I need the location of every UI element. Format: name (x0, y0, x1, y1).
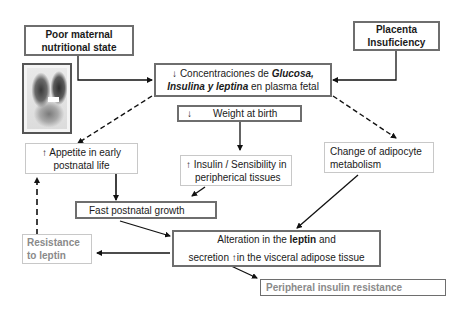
node-text: Fast postnatal growth (89, 204, 215, 217)
node-text: Appetite in early (49, 147, 121, 158)
node-text: nutritional state (41, 41, 116, 54)
node-fetal-plasma-concentrations: ↓ Concentraciones de Glucosa, Insulina y… (154, 63, 332, 97)
node-text-emphasis: Glucosa, (272, 68, 314, 79)
node-peripheral-insulin-resistance: Peripheral insulin resistance (260, 279, 446, 296)
node-adipocyte-metabolism: Change of adipocyte metabolism (324, 142, 434, 173)
node-poor-maternal-nutrition: Poor maternal nutritional state (24, 25, 134, 56)
node-text: in the visceral adipose tissue (237, 252, 365, 263)
node-fast-postnatal-growth: Fast postnatal growth (75, 201, 217, 219)
node-weight-at-birth: ↓ Weight at birth (177, 105, 302, 122)
up-arrow-icon: ↑ (42, 147, 47, 158)
node-text: Placenta (376, 23, 417, 36)
fetus-ultrasound-image-icon (22, 63, 72, 134)
node-text: Poor maternal (45, 28, 112, 41)
node-text-emphasis: Insulina y leptina (167, 81, 248, 92)
node-text: postnatal life (53, 159, 109, 172)
node-text: Weight at birth (213, 107, 277, 120)
node-text: Peripheral insulin resistance (266, 281, 445, 294)
node-text: Change of adipocyte (330, 145, 433, 158)
node-leptin-alteration: Alteration in the leptin and secretion ↑… (172, 230, 381, 267)
node-insulin-sensibility: ↑ Insulin / Sensibility in peripherical … (180, 155, 292, 186)
node-text: Alteration in the (217, 234, 289, 245)
node-text: Concentraciones de (177, 68, 272, 79)
down-arrow-icon: ↓ (187, 107, 207, 120)
up-arrow-icon: ↑ (186, 159, 191, 170)
node-placenta-insufficiency: Placenta Insuficiency (353, 21, 440, 51)
node-text: en plasma fetal (248, 81, 319, 92)
node-text: Insuficiency (368, 36, 426, 49)
node-text: Resistance (27, 236, 91, 249)
node-text: metabolism (330, 158, 433, 171)
node-text: and (316, 234, 335, 245)
node-appetite-early-life: ↑ Appetite in early postnatal life (25, 143, 138, 174)
node-resistance-to-leptin: Resistance to leptin (22, 234, 92, 264)
node-text: to leptin (27, 249, 91, 262)
node-text: Insulin / Sensibility in (194, 159, 287, 170)
node-text: secretion (188, 252, 231, 263)
node-text-emphasis: leptin (290, 234, 317, 245)
node-text: peripherical tissues (186, 171, 291, 184)
